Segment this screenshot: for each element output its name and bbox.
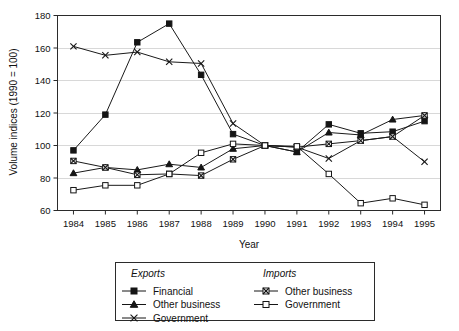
marker-open-square <box>230 141 235 146</box>
legend-item-label: Government <box>153 313 208 324</box>
marker-x-in-square <box>358 138 363 143</box>
y-axis-tick-label: 80 <box>40 173 51 184</box>
marker-filled-square <box>198 72 203 77</box>
marker-open-square <box>422 202 427 207</box>
marker-filled-square <box>131 288 137 294</box>
legend-heading-imports: Imports <box>263 268 296 279</box>
marker-filled-square <box>167 21 172 26</box>
marker-filled-square <box>135 40 140 45</box>
legend-item-label: Other business <box>153 299 220 310</box>
marker-open-square <box>167 171 172 176</box>
marker-open-square <box>262 143 267 148</box>
marker-filled-square <box>230 131 235 136</box>
legend-heading-exports: Exports <box>131 268 165 279</box>
chart-background <box>0 0 459 331</box>
marker-open-square <box>198 150 203 155</box>
marker-filled-square <box>326 122 331 127</box>
marker-filled-square <box>103 112 108 117</box>
x-axis-tick-label: 1995 <box>414 218 435 229</box>
x-axis-tick-label: 1994 <box>382 218 403 229</box>
x-axis-tick-label: 1985 <box>95 218 116 229</box>
x-axis-tick-label: 1984 <box>63 218 84 229</box>
marker-x-in-square <box>390 134 395 139</box>
x-axis-tick-label: 1986 <box>127 218 148 229</box>
y-axis-tick-label: 140 <box>35 75 51 86</box>
x-axis-tick-label: 1988 <box>191 218 212 229</box>
x-axis-tick-label: 1993 <box>350 218 371 229</box>
marker-x-in-square <box>71 158 76 163</box>
x-axis-tick-label: 1987 <box>159 218 180 229</box>
legend-item-label: Other business <box>285 286 352 297</box>
x-axis-tick-label: 1990 <box>254 218 275 229</box>
y-axis-tick-label: 180 <box>35 10 51 21</box>
x-axis-tick-label: 1992 <box>318 218 339 229</box>
y-axis-title: Volume indices (1990 = 100) <box>8 48 19 175</box>
y-axis-tick-label: 60 <box>40 205 51 216</box>
y-axis-tick-label: 160 <box>35 43 51 54</box>
marker-x-in-square <box>263 288 269 294</box>
marker-open-square <box>263 302 269 308</box>
marker-open-square <box>103 183 108 188</box>
line-chart: 6080100120140160180 19841985198619871988… <box>0 0 459 331</box>
marker-x-in-square <box>326 141 331 146</box>
marker-filled-square <box>71 148 76 153</box>
marker-open-square <box>358 200 363 205</box>
marker-x-in-square <box>103 165 108 170</box>
marker-open-square <box>294 144 299 149</box>
marker-x-in-square <box>198 173 203 178</box>
x-axis-tick-label: 1989 <box>222 218 243 229</box>
marker-open-square <box>326 171 331 176</box>
legend-item-label: Government <box>285 299 340 310</box>
y-axis-tick-label: 100 <box>35 140 51 151</box>
marker-x-in-square <box>230 157 235 162</box>
y-axis-tick-label: 120 <box>35 108 51 119</box>
x-axis-tick-label: 1991 <box>286 218 307 229</box>
marker-open-square <box>390 196 395 201</box>
chart-canvas: 6080100120140160180 19841985198619871988… <box>0 0 459 331</box>
marker-open-square <box>135 183 140 188</box>
marker-x-in-square <box>135 172 140 177</box>
marker-open-square <box>71 187 76 192</box>
marker-filled-square <box>422 118 427 123</box>
marker-x-in-square <box>422 113 427 118</box>
x-axis-title: Year <box>239 239 260 250</box>
legend-item-label: Financial <box>153 286 193 297</box>
